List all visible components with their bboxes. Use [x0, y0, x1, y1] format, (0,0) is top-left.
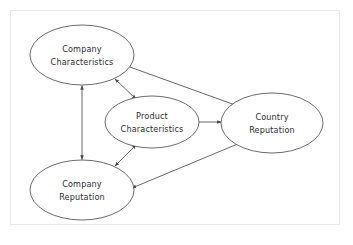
node-label-company-reputation-line1: Company [62, 179, 102, 189]
diagram-canvas: Company Characteristics Product Characte… [0, 0, 353, 245]
node-group: Company Characteristics Product Characte… [30, 25, 323, 220]
node-company-reputation[interactable]: Company Reputation [30, 160, 134, 220]
node-label-company-reputation-line2: Reputation [59, 192, 105, 202]
edge-country-reputation-company-reputation [132, 143, 240, 188]
node-label-product-characteristics-line1: Product [136, 111, 168, 121]
node-label-company-characteristics-line2: Characteristics [51, 57, 114, 67]
node-product-characteristics[interactable]: Product Characteristics [105, 96, 199, 148]
node-company-characteristics[interactable]: Company Characteristics [30, 25, 134, 85]
node-ellipse-company-reputation[interactable] [30, 160, 134, 220]
node-label-country-reputation-line1: Country [255, 112, 288, 122]
node-label-company-characteristics-line1: Company [62, 44, 102, 54]
node-country-reputation[interactable]: Country Reputation [221, 93, 323, 153]
diagram-svg: Company Characteristics Product Characte… [0, 0, 353, 245]
node-ellipse-country-reputation[interactable] [221, 93, 323, 153]
node-label-country-reputation-line2: Reputation [249, 125, 295, 135]
node-ellipse-product-characteristics[interactable] [105, 96, 199, 148]
node-label-product-characteristics-line2: Characteristics [121, 124, 184, 134]
edge-company-reputation-product-characteristics [115, 145, 136, 166]
node-ellipse-company-characteristics[interactable] [30, 25, 134, 85]
edge-company-characteristics-product-characteristics [115, 79, 136, 99]
